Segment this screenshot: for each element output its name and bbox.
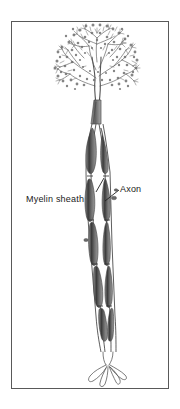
label-axon: Axon <box>120 184 141 194</box>
figure-border <box>11 21 169 389</box>
label-myelin-sheath: Myelin sheath <box>26 194 84 204</box>
neuron-figure: Myelin sheath Axon <box>0 0 180 409</box>
